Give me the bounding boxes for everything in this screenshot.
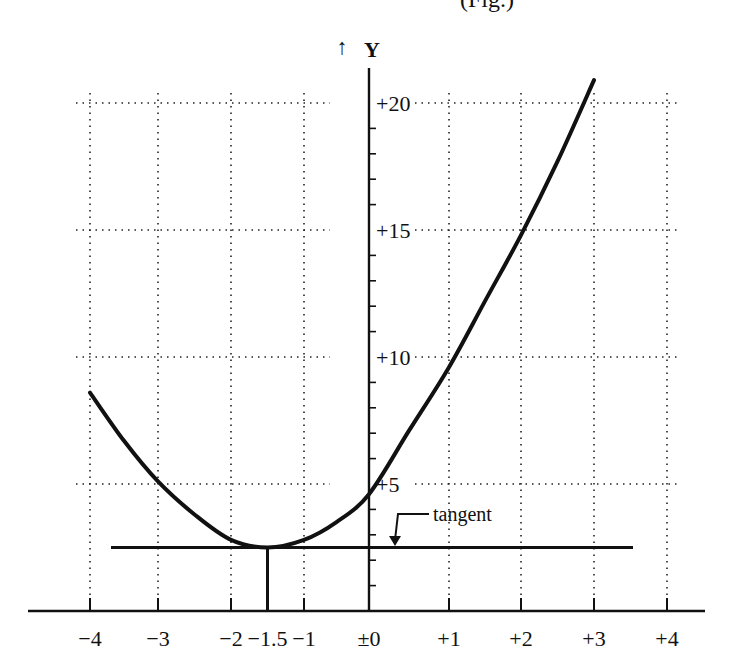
y-tick-label: +15	[376, 218, 410, 243]
curve-line	[90, 80, 594, 547]
tangent-label: tangent	[433, 503, 492, 526]
x-tick-label: −1	[292, 626, 315, 651]
y-tick-label: +20	[376, 91, 410, 116]
arrowhead-icon	[389, 536, 401, 546]
x-tick-label: ±0	[357, 626, 380, 651]
x-tick-label: −2	[219, 626, 242, 651]
curve-series	[90, 80, 594, 547]
y-axis-label: Y	[364, 37, 380, 62]
x-tick-label: −1.5	[248, 626, 288, 651]
tick-labels: −4−3−2−1.5−1±0+1+2+3+4+5+10+15+20Y↑	[78, 34, 678, 651]
x-tick-label: +4	[655, 626, 678, 651]
axes	[28, 68, 705, 611]
x-tick-label: +2	[509, 626, 532, 651]
annotations: tangent	[111, 503, 633, 611]
y-tick-label: +5	[376, 472, 399, 497]
x-tick-label: −3	[146, 626, 169, 651]
x-tick-label: −4	[78, 626, 101, 651]
x-tick-label: +3	[582, 626, 605, 651]
up-arrow-icon: ↑	[337, 34, 348, 59]
x-tick-label: +1	[437, 626, 460, 651]
y-tick-label: +10	[376, 345, 410, 370]
chart: tangent −4−3−2−1.5−1±0+1+2+3+4+5+10+15+2…	[0, 0, 734, 664]
